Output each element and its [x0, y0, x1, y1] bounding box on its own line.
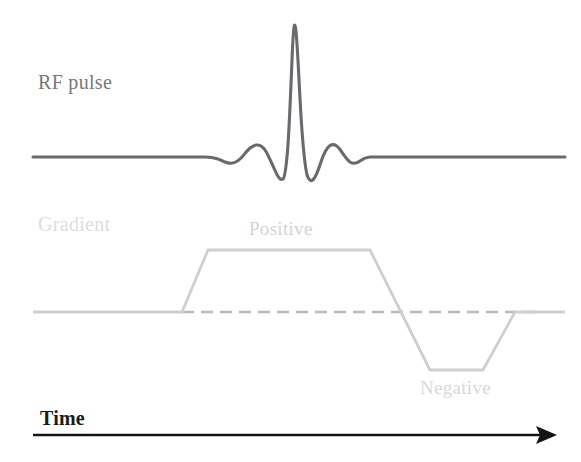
positive-lobe-label: Positive	[249, 219, 313, 238]
negative-lobe-label: Negative	[420, 378, 491, 397]
pulse-sequence-figure: RF pulse Gradient Positive Negative Time	[0, 0, 581, 462]
gradient-label: Gradient	[38, 214, 110, 234]
time-axis-label: Time	[40, 408, 85, 428]
gradient-waveform	[33, 250, 565, 370]
rf-waveform	[33, 25, 565, 181]
rf-pulse-label: RF pulse	[38, 72, 112, 92]
